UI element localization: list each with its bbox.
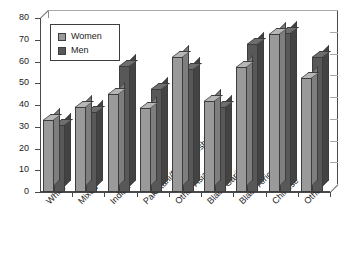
bar-women [269, 34, 280, 192]
y-axis-tick [35, 83, 40, 84]
bar-side [280, 22, 286, 186]
y-axis-tick-label: 60 [11, 57, 29, 66]
bar-women [236, 67, 247, 192]
y-axis-tick [35, 105, 40, 106]
y-axis-tick-label: 40 [11, 100, 29, 109]
bar-face [75, 107, 86, 192]
y-axis-tick-label: 70 [11, 35, 29, 44]
y-axis-tick-label: 30 [11, 122, 29, 131]
y-axis-tick-label: 20 [11, 144, 29, 153]
bar-side [54, 108, 60, 186]
bar-side [312, 66, 318, 186]
bar-side [226, 95, 232, 186]
bar-face [172, 57, 183, 192]
bar-women [75, 107, 86, 192]
legend-swatch-women [58, 33, 66, 41]
bar-face [269, 34, 280, 192]
x-axis-tick [330, 192, 331, 197]
bar-women [172, 57, 183, 192]
y-axis-tick [35, 149, 40, 150]
bar-side [215, 89, 221, 186]
y-axis-tick [35, 62, 40, 63]
bar-side [162, 77, 168, 186]
y-axis-tick [35, 192, 40, 193]
bar-side [86, 95, 92, 186]
bar-side [323, 45, 329, 186]
y-axis-labels: 01020304050607080 [11, 0, 29, 276]
x-axis-tick [298, 192, 299, 197]
bar-side [151, 96, 157, 186]
bar-women [204, 101, 215, 192]
bar-face [301, 78, 312, 192]
y-axis-tick-label: 80 [11, 13, 29, 22]
bar-women [108, 94, 119, 192]
y-axis-tick-label: 10 [11, 165, 29, 174]
y-axis-tick-label: 50 [11, 78, 29, 87]
bar-chart: 01020304050607080 WhiteMixedIndianPakist… [0, 0, 354, 276]
x-axis-tick [233, 192, 234, 197]
bar-side [291, 21, 297, 186]
y-axis-tick [35, 127, 40, 128]
x-axis-tick [169, 192, 170, 197]
y-axis-tick [35, 40, 40, 41]
bar-side [258, 32, 264, 186]
bar-women [43, 120, 54, 192]
bar-face [140, 108, 151, 192]
gridline [48, 10, 338, 11]
legend-label-men: Men [71, 46, 89, 55]
x-axis-tick [201, 192, 202, 197]
bar-face [108, 94, 119, 192]
legend-swatch-men [58, 47, 66, 55]
bar-face [43, 120, 54, 192]
y-axis-tick [35, 18, 40, 19]
bar-women [140, 108, 151, 192]
bar-face [204, 101, 215, 192]
legend-label-women: Women [71, 32, 102, 41]
bar-face [236, 67, 247, 192]
bar-side [119, 82, 125, 186]
bar-women [301, 78, 312, 192]
legend: Women Men [50, 24, 120, 61]
y-axis-tick-label: 0 [11, 187, 29, 196]
legend-item-men: Men [58, 44, 89, 57]
depth-line-bottom-right [330, 184, 339, 193]
y-axis-tick [35, 170, 40, 171]
x-axis-tick [104, 192, 105, 197]
bar-side [194, 57, 200, 186]
x-axis-tick [137, 192, 138, 197]
bar-side [183, 45, 189, 186]
bar-side [247, 55, 253, 186]
legend-item-women: Women [58, 30, 102, 43]
x-axis-tick [72, 192, 73, 197]
x-axis-tick [266, 192, 267, 197]
bar-side [130, 54, 136, 186]
bar-side [97, 100, 103, 186]
